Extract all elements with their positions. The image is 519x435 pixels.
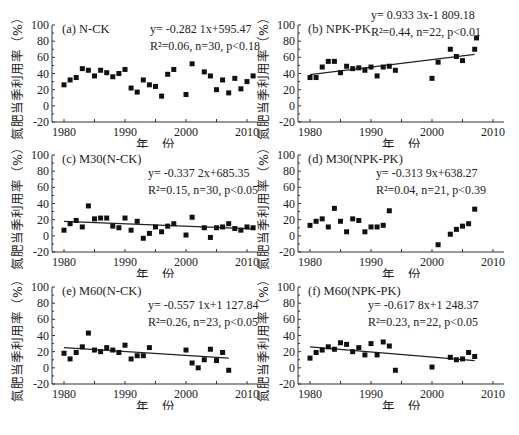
data-point xyxy=(350,66,355,71)
data-point xyxy=(232,226,237,231)
y-axis-label: 氮肥当季利用率（%） xyxy=(256,11,271,140)
data-point xyxy=(190,360,195,365)
data-point xyxy=(332,206,337,211)
y-tick-label: 80 xyxy=(283,164,295,178)
data-point xyxy=(436,242,441,247)
data-point xyxy=(159,94,164,99)
y-tick-label: -20 xyxy=(33,245,49,259)
data-point xyxy=(454,227,459,232)
data-point xyxy=(208,347,213,352)
data-point xyxy=(68,77,73,82)
data-point xyxy=(344,342,349,347)
data-point xyxy=(202,69,207,74)
data-point xyxy=(110,348,115,353)
y-tick-label: -20 xyxy=(279,115,295,129)
data-point xyxy=(171,221,176,226)
data-point xyxy=(62,228,67,233)
y-tick-label: 20 xyxy=(283,213,295,227)
y-tick-label: 20 xyxy=(37,83,49,97)
data-point xyxy=(448,355,453,360)
data-point xyxy=(332,59,337,64)
data-point xyxy=(326,344,331,349)
regression-equation: y= -0.313 9x+638.27 xyxy=(376,166,478,180)
x-tick-label: 2010 xyxy=(481,387,505,401)
data-point xyxy=(350,216,355,221)
y-axis-label: 氮肥当季利用率（%） xyxy=(10,273,25,402)
chart-panel-b: 氮肥当季利用率（%）100806040200-20198019902000201… xyxy=(246,0,519,148)
y-tick-label: 0 xyxy=(289,99,295,113)
regression-equation: y= -0.337 2x+685.35 xyxy=(148,166,250,180)
data-point xyxy=(362,68,367,73)
chart-panel-c: 氮肥当季利用率（%）100806040200-20198019902000201… xyxy=(0,130,273,278)
panel-title: (e) M60(N-CK) xyxy=(62,284,142,298)
data-point xyxy=(454,357,459,362)
chart-panel-e: 氮肥当季利用率（%）100806040200-20198019902000201… xyxy=(0,262,273,410)
data-point xyxy=(387,344,392,349)
data-point xyxy=(332,347,337,352)
data-point xyxy=(159,229,164,234)
y-tick-label: -20 xyxy=(279,377,295,391)
data-point xyxy=(387,64,392,69)
data-point xyxy=(190,61,195,66)
data-point xyxy=(184,92,189,97)
data-point xyxy=(375,352,380,357)
regression-stats: R²=0.23, n=22, p<0.05 xyxy=(368,315,478,329)
data-point xyxy=(238,228,243,233)
data-point xyxy=(214,225,219,230)
data-point xyxy=(393,68,398,73)
data-point xyxy=(86,331,91,336)
data-point xyxy=(381,65,386,70)
data-point xyxy=(436,60,441,65)
data-point xyxy=(98,68,103,73)
data-point xyxy=(326,224,331,229)
data-point xyxy=(338,219,343,224)
data-point xyxy=(74,350,79,355)
y-tick-label: 100 xyxy=(277,148,295,162)
data-point xyxy=(86,203,91,208)
regression-equation: y= -0.617 8x+1 248.37 xyxy=(368,298,479,312)
y-tick-label: 0 xyxy=(43,99,49,113)
panel-title: (c) M30(N-CK) xyxy=(62,152,142,166)
data-point xyxy=(153,84,158,89)
data-point xyxy=(208,235,213,240)
data-point xyxy=(308,356,313,361)
data-point xyxy=(238,86,243,91)
y-tick-label: 60 xyxy=(37,180,49,194)
data-point xyxy=(362,229,367,234)
y-tick-label: 0 xyxy=(289,229,295,243)
data-point xyxy=(104,216,109,221)
data-point xyxy=(381,223,386,228)
y-tick-label: -20 xyxy=(279,245,295,259)
data-point xyxy=(141,77,146,82)
data-point xyxy=(116,350,121,355)
data-point xyxy=(214,87,219,92)
data-point xyxy=(460,224,465,229)
data-point xyxy=(196,365,201,370)
data-point xyxy=(466,350,471,355)
data-point xyxy=(220,350,225,355)
y-tick-label: 40 xyxy=(283,197,295,211)
data-point xyxy=(129,356,134,361)
y-tick-label: 100 xyxy=(277,18,295,32)
data-point xyxy=(62,82,67,87)
regression-equation: y= 0.933 3x-1 809.18 xyxy=(371,8,475,22)
regression-stats: R²=0.44, n=22, p<0.01 xyxy=(371,25,481,39)
data-point xyxy=(226,368,231,373)
data-point xyxy=(369,224,374,229)
y-tick-label: 20 xyxy=(37,345,49,359)
data-point xyxy=(232,76,237,81)
data-point xyxy=(381,339,386,344)
data-point xyxy=(460,356,465,361)
data-point xyxy=(74,218,79,223)
panel-title: (f) M60(NPK-PK) xyxy=(308,284,401,298)
regression-stats: R²=0.15, n=30, p<0.05 xyxy=(148,183,258,197)
data-point xyxy=(98,349,103,354)
chart-panel-d: 氮肥当季利用率（%）100806040200-20198019902000201… xyxy=(246,130,519,278)
data-point xyxy=(68,356,73,361)
data-point xyxy=(153,224,158,229)
trend-line xyxy=(64,348,229,359)
data-point xyxy=(116,71,121,76)
data-point xyxy=(369,341,374,346)
data-point xyxy=(472,47,477,52)
data-point xyxy=(344,229,349,234)
